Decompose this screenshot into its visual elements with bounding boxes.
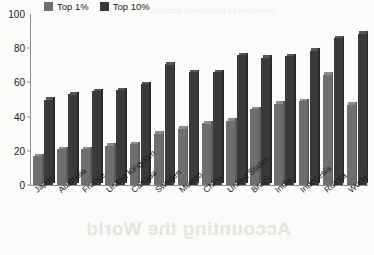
bar-group <box>102 14 126 185</box>
bar-top10 <box>358 34 367 185</box>
legend-label: Top 1% <box>57 2 89 12</box>
legend-label: Top 10% <box>113 2 150 12</box>
bar-group <box>54 14 78 185</box>
bar-group <box>296 14 320 185</box>
bar-group <box>344 14 368 185</box>
plot-area: 020406080100 <box>30 14 368 185</box>
bar-top10 <box>310 51 319 185</box>
chart-legend: Top 1%Top 10% <box>44 2 150 12</box>
bar-top1 <box>226 121 235 185</box>
bar-group <box>175 14 199 185</box>
bar-top10 <box>189 72 198 185</box>
x-axis-labels: JapanAustraliaFranceUnited KingdomCanada… <box>30 187 368 253</box>
bar-top10 <box>285 56 294 185</box>
bar-top10 <box>334 38 343 185</box>
bar-top10 <box>165 64 174 185</box>
bar-top1 <box>299 101 308 185</box>
bar-series-group <box>30 14 368 185</box>
bar-group <box>151 14 175 185</box>
y-tick-label: 100 <box>8 9 30 20</box>
bar-group <box>78 14 102 185</box>
legend-swatch-icon <box>100 2 109 11</box>
bar-group <box>223 14 247 185</box>
bar-chart: measured by the national accounts Accoun… <box>0 0 374 255</box>
bar-top1 <box>274 104 283 185</box>
legend-item-1: Top 10% <box>100 2 150 12</box>
legend-swatch-icon <box>44 2 53 11</box>
bar-group <box>271 14 295 185</box>
bar-group <box>30 14 54 185</box>
bar-top10 <box>213 72 222 185</box>
bar-group <box>199 14 223 185</box>
bar-top1 <box>347 105 356 185</box>
bar-top10 <box>237 55 246 185</box>
legend-item-0: Top 1% <box>44 2 89 12</box>
bar-group <box>320 14 344 185</box>
